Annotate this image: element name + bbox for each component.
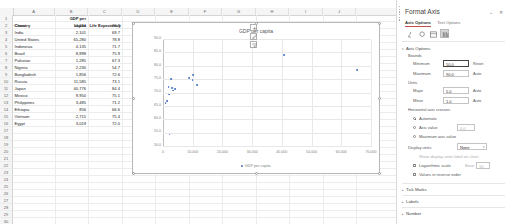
cell-c9[interactable]: 72.6 [88,71,122,78]
scatter-point[interactable] [171,87,173,89]
size-properties-icon[interactable] [428,29,437,38]
row-header-6[interactable]: 6 [0,50,13,57]
cell-a9[interactable]: Bangladesh [13,71,55,78]
cell-c3[interactable]: 69.7 [88,29,122,36]
cell-c14[interactable]: 66.6 [88,106,122,113]
chart-handle-nw[interactable] [132,22,135,25]
cell-c15[interactable]: 75.4 [88,113,122,120]
cell-a13[interactable]: Philippines [13,99,55,106]
cell-c4[interactable]: 78.8 [88,36,122,43]
cell-b7[interactable]: 1,285 [55,57,88,64]
cell-c8[interactable]: 54.7 [88,64,122,71]
chart-filters-button[interactable] [250,41,257,48]
minimum-reset-button[interactable]: Reset [473,61,483,66]
cell-a5[interactable]: Indonesia [13,43,55,50]
row-header-26[interactable]: 26 [0,190,13,197]
chart-legend[interactable]: GDP per capita [133,164,379,168]
column-header-a[interactable]: A [13,8,55,15]
select-all-corner[interactable] [0,8,14,15]
scatter-point[interactable] [189,77,191,79]
values-in-reverse-order-checkbox[interactable]: Values in reverse order [413,172,461,177]
cell-c11[interactable]: 84.4 [88,85,122,92]
row-header-28[interactable]: 28 [0,204,13,211]
radio-axis-value[interactable]: Axis value [413,125,438,130]
maximum-input[interactable]: 90.0 [443,70,469,77]
row-header-11[interactable]: 11 [0,85,13,92]
cell-c16[interactable]: 72.0 [88,120,122,127]
cell-b4[interactable]: 65,280 [55,36,88,43]
cell-a4[interactable]: United States [13,36,55,43]
pane-close-icon[interactable]: ✕ [499,9,503,15]
row-header-19[interactable]: 19 [0,141,13,148]
row-header-8[interactable]: 8 [0,64,13,71]
radio-maximum-axis-value[interactable]: Maximum axis value [413,134,456,139]
cell-a16[interactable]: Egypt [13,120,55,127]
fill-line-icon[interactable] [405,29,414,38]
cell-b8[interactable]: 2,230 [55,64,88,71]
scatter-point[interactable] [170,78,172,80]
scatter-point[interactable] [174,88,176,90]
row-header-24[interactable]: 24 [0,176,13,183]
column-header-f[interactable]: F [189,8,222,15]
row-header-2[interactable]: 2 [0,22,13,29]
cell-b3[interactable]: 2,101 [55,29,88,36]
column-header-b[interactable]: B [55,8,88,15]
effects-icon[interactable] [417,29,426,38]
row-header-14[interactable]: 14 [0,106,13,113]
maximum-auto-button[interactable]: Auto [473,71,481,76]
chart-handle-w[interactable] [132,97,135,100]
chart-styles-button[interactable] [250,33,257,40]
cell-b15[interactable]: 2,715 [55,113,88,120]
scatter-point[interactable] [168,86,170,88]
row-header-29[interactable]: 29 [0,211,13,218]
cell-a10[interactable]: Russia [13,78,55,85]
row-header-10[interactable]: 10 [0,78,13,85]
cell-a6[interactable]: Brazil [13,50,55,57]
cell-a2[interactable]: China [13,22,55,29]
radio-automatic[interactable]: Automatic [413,116,437,121]
chart-handle-se[interactable] [378,172,381,175]
logarithmic-scale-checkbox[interactable]: Logarithmic scale [413,163,451,168]
scatter-point[interactable] [165,102,167,104]
show-display-units-label-checkbox[interactable]: Show display units label on chart [419,154,479,159]
row-header-5[interactable]: 5 [0,43,13,50]
row-header-9[interactable]: 9 [0,71,13,78]
section-labels[interactable]: ▸Labels [402,199,419,204]
column-header-d[interactable]: D [122,8,155,15]
major-auto-button[interactable]: Auto [473,88,481,93]
major-input[interactable]: 5.0 [443,87,469,94]
column-header-g[interactable]: G [222,8,256,15]
row-header-4[interactable]: 4 [0,36,13,43]
row-header-20[interactable]: 20 [0,148,13,155]
cell-b10[interactable]: 11,585 [55,78,88,85]
row-header-1[interactable]: 1 [0,15,13,22]
cell-a15[interactable]: Vietnam [13,113,55,120]
chart-handle-sw[interactable] [132,172,135,175]
cell-a14[interactable]: Ethiopia [13,106,55,113]
axis-value-input[interactable]: 0.0 [457,124,475,131]
section-axis-options[interactable]: ▾Axis Options [402,46,430,51]
chart-handle-s[interactable] [255,172,258,175]
cell-a8[interactable]: Nigeria [13,64,55,71]
row-header-12[interactable]: 12 [0,92,13,99]
chart-handle-ne[interactable] [378,22,381,25]
cell-b6[interactable]: 8,898 [55,50,88,57]
row-header-13[interactable]: 13 [0,99,13,106]
cell-b13[interactable]: 3,485 [55,99,88,106]
cell-b11[interactable]: 40,776 [55,85,88,92]
cell-c10[interactable]: 73.1 [88,78,122,85]
cell-b16[interactable]: 3,019 [55,120,88,127]
cell-c2[interactable]: 76.9 [88,22,122,29]
minor-input[interactable]: 1.0 [443,97,469,104]
tab-axis-options[interactable]: Axis Options [405,20,431,27]
tab-text-options[interactable]: Text Options [437,20,460,26]
row-header-23[interactable]: 23 [0,169,13,176]
cell-b2[interactable]: 10,144 [55,22,88,29]
row-header-16[interactable]: 16 [0,120,13,127]
row-header-22[interactable]: 22 [0,162,13,169]
row-header-17[interactable]: 17 [0,127,13,134]
cell-c7[interactable]: 67.3 [88,57,122,64]
cell-a7[interactable]: Pakistan [13,57,55,64]
row-header-30[interactable]: 30 [0,218,13,224]
cell-a11[interactable]: Japan [13,85,55,92]
